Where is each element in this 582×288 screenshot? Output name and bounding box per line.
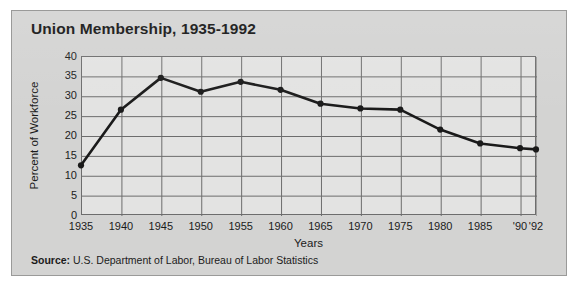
- source-note: Source: U.S. Department of Labor, Bureau…: [31, 254, 318, 266]
- data-point-marker: [477, 140, 483, 146]
- x-axis-tick-label: 1945: [149, 221, 173, 232]
- y-axis-ticks: 4035302520151050: [49, 56, 77, 215]
- y-axis-tick-label: 35: [51, 70, 77, 81]
- x-axis-tick-label: 1955: [228, 221, 252, 232]
- x-axis-ticks: 1935194019451950195519601965197019751980…: [81, 221, 536, 235]
- y-axis-tick-label: 30: [51, 90, 77, 101]
- source-label: Source:: [31, 254, 70, 266]
- data-point-marker: [118, 107, 124, 113]
- y-axis-tick-label: 20: [51, 130, 77, 141]
- y-axis-tick-label: 5: [51, 190, 77, 201]
- x-axis-tick-label: 1970: [348, 221, 372, 232]
- y-axis-tick-label: 0: [51, 210, 77, 221]
- y-axis-tick-label: 15: [51, 150, 77, 161]
- x-axis-tick-label: 1960: [268, 221, 292, 232]
- x-axis-tick-label: 1950: [188, 221, 212, 232]
- x-axis-tick-label: 1975: [388, 221, 412, 232]
- data-point-marker: [78, 162, 84, 168]
- y-axis-tick-label: 25: [51, 110, 77, 121]
- source-text: U.S. Department of Labor, Bureau of Labo…: [70, 254, 318, 266]
- x-axis-tick-label: 1985: [468, 221, 492, 232]
- page-title: Union Membership, 1935-1992: [31, 20, 256, 38]
- x-axis-label: Years: [81, 237, 536, 249]
- x-axis-tick-label: '92: [529, 221, 543, 232]
- data-point-marker: [357, 105, 363, 111]
- data-point-marker: [517, 145, 523, 151]
- data-point-marker: [238, 79, 244, 85]
- data-point-marker: [437, 126, 443, 132]
- x-axis-tick-label: 1980: [428, 221, 452, 232]
- data-point-marker: [158, 75, 164, 81]
- data-point-marker: [317, 101, 323, 107]
- y-axis-tick-label: 40: [51, 51, 77, 62]
- x-axis-tick-label: '90: [513, 221, 527, 232]
- y-axis-label: Percent of Workforce: [26, 56, 42, 215]
- y-axis-tick-label: 10: [51, 170, 77, 181]
- series-line: [81, 78, 536, 165]
- plot-wrapper: [81, 56, 536, 215]
- data-series-line: [81, 56, 536, 215]
- data-point-marker: [397, 107, 403, 113]
- x-axis-tick-label: 1965: [308, 221, 332, 232]
- data-point-marker: [198, 89, 204, 95]
- data-point-marker: [533, 146, 539, 152]
- x-axis-tick-label: 1940: [109, 221, 133, 232]
- x-axis-tick-label: 1935: [69, 221, 93, 232]
- data-point-marker: [277, 87, 283, 93]
- chart-figure: Union Membership, 1935-1992 Percent of W…: [11, 10, 567, 276]
